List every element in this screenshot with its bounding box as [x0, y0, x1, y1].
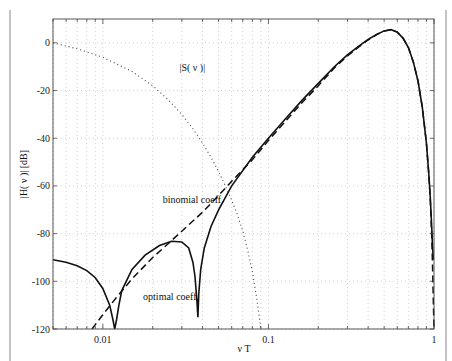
annotation-label: binomial coeff.	[163, 194, 224, 205]
annotation-label: optimal coeff.	[143, 291, 199, 302]
chart: 0-20-40-60-80-100-1200.010.11 |S( ν )|bi…	[0, 0, 452, 361]
series-solid-line	[53, 30, 433, 329]
y-tick-label: -120	[32, 324, 50, 335]
x-tick-label: 0.1	[262, 334, 275, 345]
annotation-label: |S( ν )|	[179, 62, 205, 74]
y-tick-label: -80	[37, 228, 50, 239]
series-dashed-line	[92, 30, 434, 329]
y-tick-label: -40	[37, 133, 50, 144]
y-axis-label: |H( ν )| [dB]	[18, 150, 30, 198]
x-axis-label: ν T	[237, 343, 250, 354]
y-tick-label: -60	[37, 180, 50, 191]
grid	[53, 19, 434, 329]
x-tick-label: 0.01	[94, 334, 112, 345]
series-layer	[53, 30, 434, 329]
y-tick-label: -20	[37, 85, 50, 96]
y-tick-label: -100	[32, 276, 50, 287]
plot-frame	[53, 19, 434, 329]
x-tick-label: 1	[432, 334, 437, 345]
annotations: |S( ν )|binomial coeff.optimal coeff.	[143, 62, 224, 302]
y-tick-label: 0	[45, 37, 50, 48]
